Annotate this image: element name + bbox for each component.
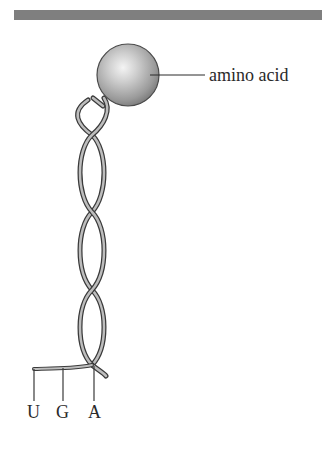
- base-label-u: U: [27, 403, 40, 421]
- anticodon-ticks: [34, 366, 94, 401]
- amino-acid-label: amino acid: [209, 66, 288, 84]
- amino-acid-sphere: [97, 44, 159, 106]
- base-label-a: A: [88, 403, 101, 421]
- base-label-g: G: [56, 403, 69, 421]
- helix-strands: [34, 98, 107, 376]
